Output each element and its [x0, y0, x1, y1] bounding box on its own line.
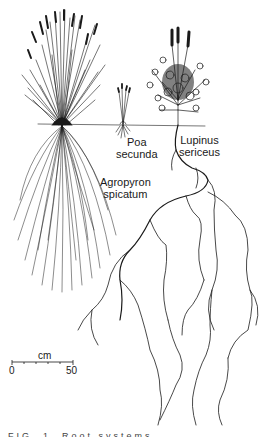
scale-end: 50 — [66, 366, 77, 376]
scale-bar-line — [0, 0, 267, 437]
root-system-figure: Poa secunda Lupinus sericeus Agropyron s… — [0, 0, 267, 437]
figure-caption-cropped: FIG. 1. Root systems ... — [8, 430, 175, 437]
scale-start: 0 — [9, 366, 15, 376]
scale-unit: cm — [38, 351, 51, 361]
